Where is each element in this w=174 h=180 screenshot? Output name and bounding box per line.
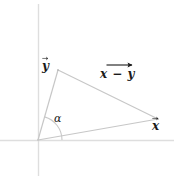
vector-y-glyph: y [42,60,49,72]
label-angle-alpha: α [54,113,61,124]
label-vector-difference: x − y [100,68,135,80]
vector-y-accented: y [42,60,49,72]
label-vector-y: y [42,60,49,72]
vector-y-line [38,70,58,140]
vector-diagram-figure: y x x − y α [0,0,174,180]
vector-x-accented: x [152,120,159,132]
vertex-origin-mark [37,139,39,141]
axes-group [0,4,174,176]
vector-triangle-group [38,70,158,140]
vector-x-glyph: x [152,120,159,132]
diagram-canvas [0,0,174,180]
vertex-y-mark [57,69,59,71]
label-vector-x: x [152,120,159,132]
